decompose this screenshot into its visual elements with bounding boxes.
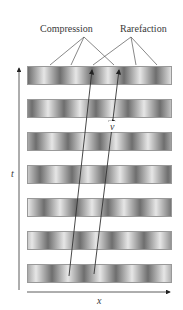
time-axis-label: t [11, 168, 14, 179]
compression-worldline [69, 70, 92, 276]
velocity-label: v [109, 121, 115, 132]
compression-leader-lines [50, 37, 114, 65]
position-axis-label: x [97, 295, 101, 306]
rarefaction-worldline [94, 70, 119, 274]
rarefaction-leader-lines [93, 37, 157, 65]
diagram-lines [0, 0, 183, 310]
